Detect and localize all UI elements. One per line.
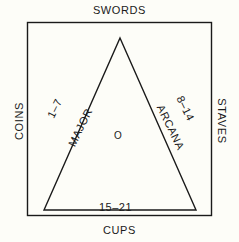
outer-label-coins: COINS xyxy=(14,0,34,242)
diagram-canvas: SWORDS COINS STAVES CUPS 1–7 MAJOR ARCAN… xyxy=(0,0,239,242)
outer-label-swords: SWORDS xyxy=(0,5,239,16)
outer-label-staves: STAVES xyxy=(207,0,227,242)
outer-label-cups: CUPS xyxy=(0,225,239,236)
triangle-center-marker: O xyxy=(114,131,122,141)
triangle-label-range-15-21: 15–21 xyxy=(99,202,132,213)
